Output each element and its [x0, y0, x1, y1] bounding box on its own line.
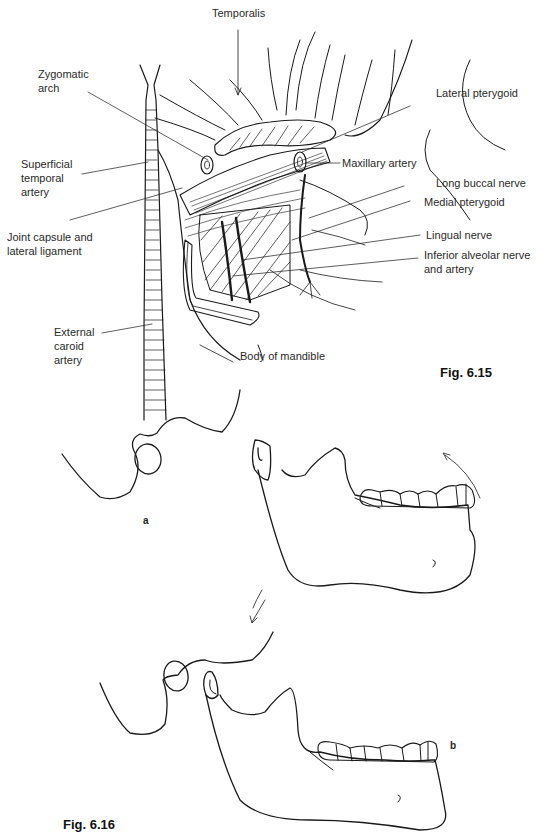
label-zygomatic-arch-line1: Zygomatic [38, 67, 89, 81]
label-lateral-pterygoid: Lateral pterygoid [436, 86, 518, 100]
caption-fig-6-16: Fig. 6.16 [63, 817, 115, 832]
label-external-carotid-line1: External [54, 325, 94, 339]
label-external-carotid-line2: caroid [54, 339, 84, 353]
label-maxillary-artery: Maxillary artery [342, 156, 417, 170]
label-joint-capsule-line1: Joint capsule and [7, 230, 93, 244]
label-temporalis: Temporalis [212, 6, 265, 20]
label-long-buccal-nerve: Long buccal nerve [436, 176, 526, 190]
label-joint-capsule-line2: lateral ligament [7, 244, 82, 258]
label-external-carotid-line3: artery [54, 353, 82, 367]
label-superficial-temporal-line1: Superficial [21, 157, 72, 171]
fig-6-16a-drawing [62, 390, 480, 608]
anatomy-illustrations [0, 0, 546, 839]
label-zygomatic-arch-line2: arch [38, 81, 59, 95]
label-body-of-mandible: Body of mandible [240, 349, 325, 363]
label-inferior-alveolar-line1: Inferior alveolar nerve [424, 248, 530, 262]
caption-fig-6-15: Fig. 6.15 [440, 365, 492, 380]
label-medial-pterygoid: Medial pterygoid [424, 195, 505, 209]
label-lingual-nerve: Lingual nerve [426, 228, 492, 242]
panel-label-a: a [143, 515, 149, 526]
fig-6-16b-drawing [100, 600, 446, 830]
label-superficial-temporal-line2: temporal [21, 171, 64, 185]
label-superficial-temporal-line3: artery [21, 185, 49, 199]
label-inferior-alveolar-line2: and artery [424, 262, 474, 276]
panel-label-b: b [450, 740, 456, 751]
